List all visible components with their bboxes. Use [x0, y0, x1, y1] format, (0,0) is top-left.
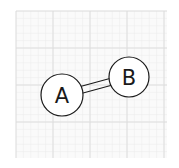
node-label: A [55, 84, 70, 108]
node-label: B [122, 66, 136, 90]
graph-diagram: AB [0, 0, 179, 168]
node-A: A [41, 74, 83, 116]
node-B: B [109, 57, 149, 97]
